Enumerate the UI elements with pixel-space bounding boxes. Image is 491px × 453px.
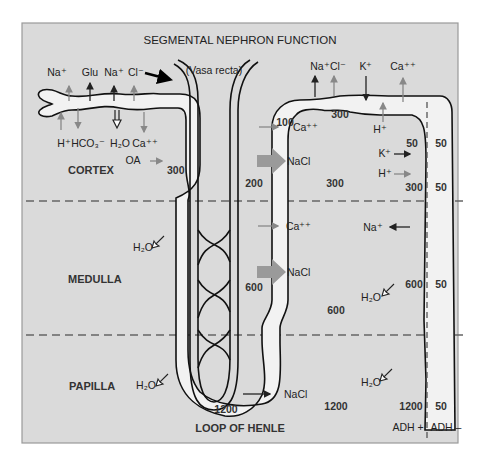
diagram-title: SEGMENTAL NEPHRON FUNCTION [144,34,337,46]
ca-medulla-label: Ca⁺⁺ [286,220,311,232]
svg-text:1200: 1200 [399,400,423,412]
svg-text:Na⁺: Na⁺ [47,66,66,78]
descending-water-medulla: H₂O [133,241,153,253]
ascending-osmolality-medulla: 600 [245,281,263,293]
svg-text:50: 50 [435,137,447,149]
interstitium-cortex: 300 [326,177,344,189]
distal-osmolality: 300 [331,108,349,120]
ascending-osmolality-cortex: 200 [245,177,263,189]
svg-text:600: 600 [405,278,423,290]
svg-text:50: 50 [435,400,447,412]
loop-of-henle-label: LOOP OF HENLE [195,422,285,434]
svg-text:HCO₃⁻: HCO₃⁻ [71,137,105,149]
h-secreted-label: H⁺ [378,167,392,179]
interstitium-papilla: 1200 [324,400,348,412]
nephron-diagram: SEGMENTAL NEPHRON FUNCTION CORTEX MEDULL… [0,0,491,453]
interstitium-medulla: 600 [327,304,345,316]
region-cortex: CORTEX [68,164,115,176]
svg-text:300: 300 [405,181,423,193]
svg-text:50: 50 [435,181,447,193]
na-reabsorbed-label: Na⁺ [363,221,382,233]
region-papilla: PAPILLA [69,380,115,392]
svg-text:Ca⁺⁺: Ca⁺⁺ [390,60,415,72]
vasa-recta-label: (Vasa recta) [186,64,242,76]
collecting-water-papilla: H₂O [361,376,381,388]
nacl-medulla-label: NaCl [287,266,310,278]
svg-text:Cl⁻: Cl⁻ [330,60,346,72]
adh-minus-label: ADH – [431,421,462,433]
ca-cortex-label: Ca⁺⁺ [293,121,318,133]
svg-text:H⁺: H⁺ [373,123,387,135]
nacl-thin-label: NaCl [284,388,307,400]
svg-text:H⁺: H⁺ [57,137,71,149]
region-medulla: MEDULLA [68,273,122,285]
svg-text:Na⁺: Na⁺ [104,66,123,78]
k-secreted-label: K⁺ [378,147,391,159]
svg-text:H₂O: H₂O [110,137,130,149]
descending-water-papilla: H₂O [136,379,156,391]
svg-text:Glu: Glu [82,66,99,78]
ascending-top-osmolality: 100 [276,116,294,128]
svg-text:50: 50 [435,278,447,290]
loop-tip-osmolality: 1200 [214,403,238,415]
oa-label: OA [125,154,140,166]
proximal-osmolality: 300 [167,164,185,176]
svg-text:50: 50 [406,137,418,149]
collecting-water-medulla: H₂O [361,291,381,303]
svg-text:K⁺: K⁺ [359,60,372,72]
nacl-cortex-label: NaCl [287,155,310,167]
adh-plus-label: ADH + [392,421,423,433]
svg-text:Ca⁺⁺: Ca⁺⁺ [132,137,157,149]
svg-text:Cl⁻: Cl⁻ [128,66,144,78]
svg-text:Na⁺: Na⁺ [310,60,329,72]
